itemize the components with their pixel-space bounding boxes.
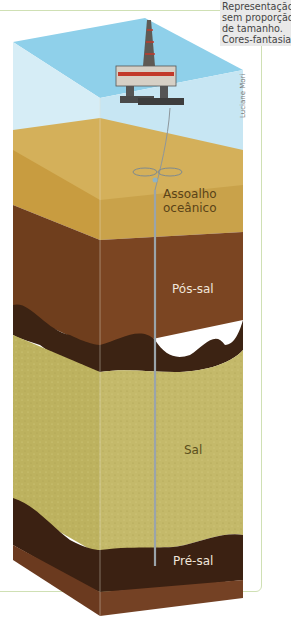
label-sal: Sal	[184, 443, 202, 457]
note-line: Cores-fantasia.	[222, 34, 289, 45]
note-line: Representação	[222, 1, 289, 12]
label-assoalho: Assoalho oceânico	[163, 187, 217, 215]
note-line: sem proporção	[222, 12, 289, 23]
disclaimer-note: Representação sem proporção de tamanho. …	[220, 0, 291, 46]
note-line: de tamanho.	[222, 23, 289, 34]
image-credit: Luciane Mori	[237, 76, 251, 120]
label-pos-sal: Pós-sal	[172, 282, 214, 296]
label-pre-sal: Pré-sal	[173, 554, 213, 568]
